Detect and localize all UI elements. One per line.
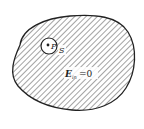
point-label: P	[50, 42, 57, 51]
field-subscript: in	[72, 74, 77, 80]
field-symbol: E	[64, 69, 72, 79]
conductor-diagram: P S E in =0	[0, 0, 144, 129]
field-equals: =0	[79, 69, 93, 79]
surface-label: S	[59, 46, 65, 55]
point-p-dot	[47, 44, 50, 47]
conductor-body	[13, 15, 135, 110]
